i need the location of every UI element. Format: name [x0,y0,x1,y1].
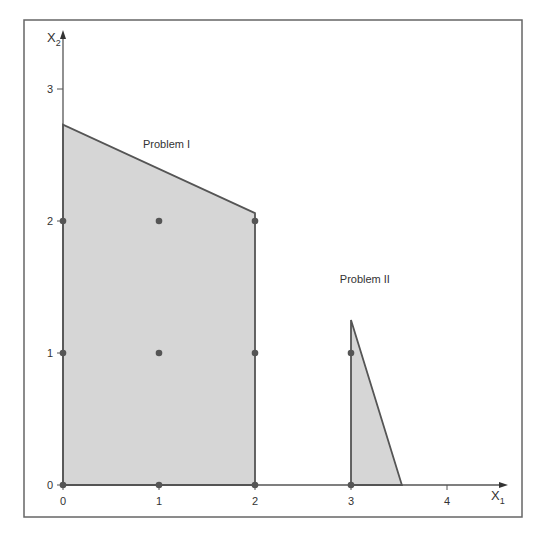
x-tick-label: 0 [60,495,66,507]
y-tick-label: 3 [47,83,53,95]
regions-layer [63,125,402,485]
integer-point [60,350,67,357]
integer-point [252,350,259,357]
integer-point [156,482,163,489]
y-tick-label: 2 [47,215,53,227]
region-problem-ii [351,320,402,485]
integer-point [252,218,259,225]
region-label-problem-i: Problem I [143,138,190,150]
x-axis-label: X1 [491,488,505,506]
integer-point [348,482,355,489]
x-axis-arrow-icon [499,482,508,488]
x-tick-label: 2 [252,495,258,507]
y-tick-label: 1 [47,347,53,359]
region-label-problem-ii: Problem II [340,273,390,285]
x-tick-label: 1 [156,495,162,507]
x-tick-label: 4 [444,495,450,507]
integer-point [156,218,163,225]
integer-point [252,482,259,489]
x-tick-label: 3 [348,495,354,507]
y-axis-arrow-icon [60,30,66,39]
integer-point [60,482,67,489]
feasible-region-diagram: 012340123 X1 X2 Problem IProblem II [0,0,544,539]
y-axis-label: X2 [47,30,61,48]
integer-point [348,350,355,357]
region-problem-i [63,125,255,485]
y-tick-label: 0 [47,479,53,491]
integer-point [60,218,67,225]
integer-point [156,350,163,357]
